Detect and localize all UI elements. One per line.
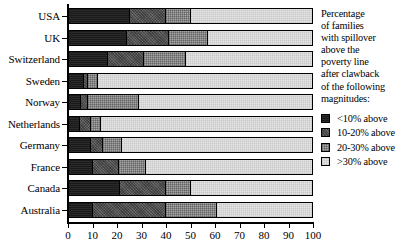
x-axis-tick (191, 223, 192, 228)
x-axis-tick (240, 223, 241, 228)
x-axis-tick (117, 223, 118, 228)
x-axis-tick (68, 223, 69, 228)
bar-segment (91, 138, 103, 152)
bar-segment (69, 117, 80, 131)
y-axis-label: UK (0, 28, 63, 50)
legend-header-line: above the (321, 44, 405, 56)
bar-segment (122, 138, 312, 152)
stacked-bar (68, 30, 313, 46)
legend-item: 20-30% above (321, 140, 405, 155)
legend-label: >30% above (337, 156, 387, 167)
legend-header-text: Percentageof familieswith spilloverabove… (321, 8, 405, 105)
x-axis-tick (142, 223, 143, 228)
x-axis-tick (289, 223, 290, 228)
y-axis-tick (62, 188, 67, 189)
x-axis-tick-label: 40 (154, 229, 178, 241)
bar-segment (91, 117, 101, 131)
bar-segment (108, 52, 144, 66)
bar-segment (103, 138, 122, 152)
bar-segment (93, 203, 166, 217)
y-axis-label: USA (0, 6, 63, 28)
bar-row (68, 135, 313, 157)
x-axis-tick (215, 223, 216, 228)
legend-header-line: poverty line (321, 56, 405, 68)
x-axis-tick-label: 30 (130, 229, 154, 241)
legend-item: <10% above (321, 111, 405, 126)
x-axis-tick-label: 70 (228, 229, 252, 241)
y-axis-label: Australia (0, 200, 63, 222)
legend-label: 20-30% above (337, 142, 395, 153)
y-axis-tick (62, 38, 67, 39)
bar-row (68, 49, 313, 71)
x-axis-tick-label: 10 (81, 229, 105, 241)
bar-row (68, 114, 313, 136)
y-axis-label: Sweden (0, 71, 63, 93)
bar-segment (139, 95, 312, 109)
bar-segment (69, 160, 93, 174)
bar-segment (130, 9, 166, 23)
y-axis-label: Norway (0, 92, 63, 114)
y-axis-tick (62, 210, 67, 211)
bar-segment (120, 181, 166, 195)
bar-segment (69, 9, 130, 23)
stacked-bar (68, 180, 313, 196)
legend-item: >30% above (321, 154, 405, 169)
bar-row (68, 71, 313, 93)
x-axis-tick-label: 0 (56, 229, 80, 241)
stacked-bar (68, 116, 313, 132)
bar-segment (191, 9, 312, 23)
y-axis-line (67, 4, 69, 223)
y-axis-tick (62, 102, 67, 103)
bar-segment (88, 74, 98, 88)
legend-header-line: Percentage (321, 8, 405, 20)
bar-segment (69, 203, 93, 217)
x-axis-tick-label: 50 (179, 229, 203, 241)
legend-header-line: of the following (321, 81, 405, 93)
bar-segment (146, 160, 312, 174)
bar-segment (144, 52, 185, 66)
x-axis-tick-label: 100 (301, 229, 325, 241)
bar-segment (169, 31, 208, 45)
bar-row (68, 178, 313, 200)
bar-segment (69, 52, 108, 66)
stacked-bar (68, 137, 313, 153)
stacked-bar (68, 73, 313, 89)
y-axis-tick (62, 145, 67, 146)
stacked-bar (68, 202, 313, 218)
stacked-bar (68, 51, 313, 67)
y-axis-label: Netherlands (0, 114, 63, 136)
x-axis-tick (93, 223, 94, 228)
bar-segment (69, 31, 127, 45)
bar-segment (98, 74, 312, 88)
bar-segment (166, 181, 190, 195)
x-axis-tick-label: 90 (277, 229, 301, 241)
x-axis-tick-label: 80 (252, 229, 276, 241)
bar-segment (217, 203, 312, 217)
y-axis-tick (62, 167, 67, 168)
stacked-bar (68, 159, 313, 175)
y-axis-label: Canada (0, 178, 63, 200)
y-axis-label: Switzerland (0, 49, 63, 71)
x-axis-tick-label: 60 (203, 229, 227, 241)
bar-segment (166, 9, 190, 23)
bar-segment (69, 95, 81, 109)
bar-segment (186, 52, 312, 66)
x-axis-tick (166, 223, 167, 228)
bar-segment (69, 138, 91, 152)
legend-swatch-icon (321, 143, 330, 152)
bar-segment (119, 160, 146, 174)
y-axis-tick (62, 124, 67, 125)
legend-header-line: with spillover (321, 32, 405, 44)
legend-items: <10% above10-20% above20-30% above>30% a… (321, 111, 405, 169)
bar-row (68, 6, 313, 28)
stacked-bar (68, 94, 313, 110)
x-axis-tick (313, 223, 314, 228)
bar-segment (88, 95, 139, 109)
bar-row (68, 28, 313, 50)
bar-segment (69, 181, 120, 195)
y-axis-tick (62, 81, 67, 82)
bar-segment (81, 95, 88, 109)
y-axis-label: France (0, 157, 63, 179)
bar-segment (80, 117, 91, 131)
legend: Percentageof familieswith spilloverabove… (321, 8, 405, 169)
